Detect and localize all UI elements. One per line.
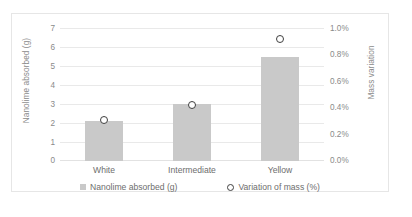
- marker-yellow: [276, 35, 284, 43]
- y-tick-left-6: 6: [50, 44, 55, 52]
- y-tick-right-080: 0.8%: [330, 51, 349, 59]
- square-swatch-icon: [80, 184, 86, 190]
- y-axis-right-title: Mass variation: [367, 29, 376, 117]
- bar-white: [85, 121, 123, 161]
- category-label-yellow: Yellow: [236, 165, 324, 175]
- legend-label-nanolime: Nanolime absorbed (g): [90, 182, 177, 192]
- gridline: [60, 28, 324, 29]
- y-tick-left-3: 3: [50, 101, 55, 109]
- open-circle-swatch-icon: [227, 184, 234, 191]
- y-tick-left-4: 4: [50, 82, 55, 90]
- y-tick-left-5: 5: [50, 63, 55, 71]
- y-tick-left-1: 1: [50, 139, 55, 147]
- chart-container: Nanolime absorbed (g) Mass variation 7 6…: [11, 13, 389, 192]
- y-tick-left-0: 0: [50, 157, 55, 165]
- y-tick-right-000: 0.0%: [330, 157, 349, 165]
- legend-label-variation: Variation of mass (%): [238, 182, 320, 192]
- y-tick-right-100: 1.0%: [330, 25, 349, 33]
- y-tick-right-060: 0.6%: [330, 78, 349, 86]
- y-axis-left-title: Nanolime absorbed (g): [22, 26, 31, 136]
- legend-item-nanolime[interactable]: Nanolime absorbed (g): [80, 182, 177, 192]
- bar-yellow: [261, 57, 299, 161]
- chart-legend: Nanolime absorbed (g) Variation of mass …: [12, 182, 388, 192]
- y-tick-left-7: 7: [50, 25, 55, 33]
- plot-area: 7 6 5 4 3 2 1 0 1.0% 0.8% 0.6% 0.4% 0.2%…: [60, 28, 324, 161]
- bar-intermediate: [173, 104, 211, 161]
- y-tick-left-2: 2: [50, 120, 55, 128]
- y-tick-right-040: 0.4%: [330, 104, 349, 112]
- y-tick-right-020: 0.2%: [330, 131, 349, 139]
- marker-intermediate: [188, 101, 196, 109]
- category-label-white: White: [60, 165, 148, 175]
- category-axis: White Intermediate Yellow: [60, 165, 324, 179]
- gridline: [60, 47, 324, 48]
- legend-item-variation[interactable]: Variation of mass (%): [227, 182, 320, 192]
- category-label-intermediate: Intermediate: [148, 165, 236, 175]
